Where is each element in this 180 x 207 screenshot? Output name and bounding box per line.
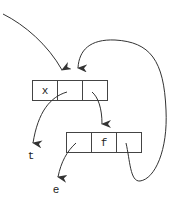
arrow-external-to-top-node: [3, 14, 62, 70]
bottom-node: f: [67, 133, 142, 153]
top-node-cell-0-label: x: [42, 85, 49, 97]
label-t: t: [28, 150, 35, 162]
diagram-canvas: x f t e: [0, 0, 180, 207]
arrow-bottom-cell2-to-top-node: [78, 40, 166, 181]
bottom-node-cell-1-label: f: [101, 137, 108, 149]
label-e: e: [53, 184, 60, 196]
bottom-node-cell-2: [117, 133, 142, 153]
top-node-cell-1: [58, 81, 83, 101]
top-node-cell-2: [83, 81, 108, 101]
